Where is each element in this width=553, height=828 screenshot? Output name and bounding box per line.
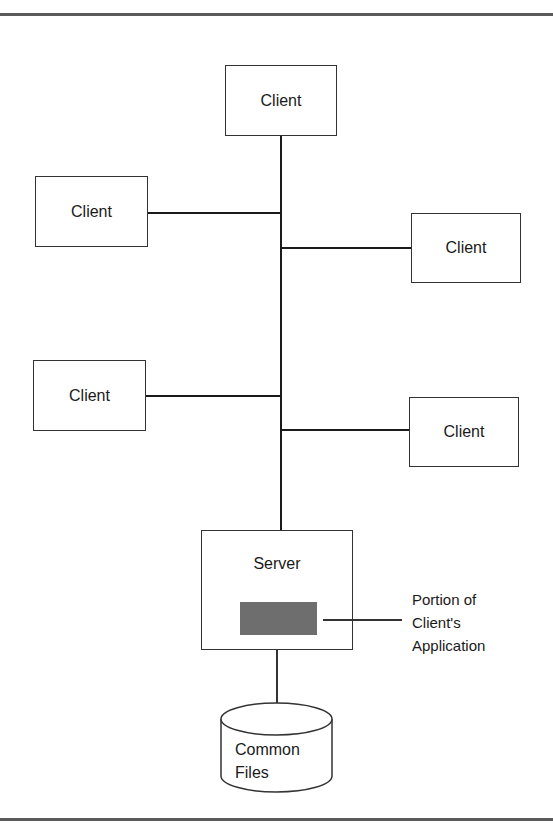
storage-line-2: Files xyxy=(235,761,300,784)
storage-line-1: Common xyxy=(235,738,300,761)
bottom-border-rule xyxy=(0,818,553,821)
storage-label: Common Files xyxy=(235,738,300,784)
database-cylinder-icon xyxy=(0,0,553,828)
